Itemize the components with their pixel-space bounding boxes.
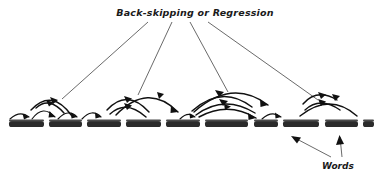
words-label: Words [322,161,354,171]
arrowhead-forward-2b [171,106,179,114]
leader-lines [62,22,318,100]
regression-cluster-4 [262,92,357,119]
word-blob [254,120,278,128]
leader-line-1 [62,22,148,99]
word-blob [166,120,200,128]
words-arrowhead-left [291,136,301,144]
word-blob [283,120,319,128]
word-blob [325,120,358,128]
regression-cluster-3 [180,90,268,120]
forward-arc-3b [199,109,256,118]
regression-cluster-2 [82,92,178,119]
arrowhead-forward-1b [49,111,56,118]
word-blob [49,120,82,128]
word-blob [363,120,374,128]
arrowhead-forward-2b-mid [157,92,164,99]
diagram-title: Back-skipping or Regression [116,7,274,18]
word-blob [87,120,121,128]
regression-cluster-1 [10,97,77,120]
reading-regression-diagram: Back-skipping or Regression [0,0,390,175]
word-blob [9,120,44,128]
text-line-words [9,120,374,128]
arrowhead-forward-4a [275,113,281,119]
words-pointer: Words [291,135,354,171]
leader-line-2 [138,22,172,95]
leader-line-4 [208,22,318,100]
words-arrowhead-right [336,135,344,145]
forward-arc-4b [300,104,357,116]
word-blob [205,120,248,128]
word-blob [126,120,161,128]
forward-arc-2b [116,98,178,115]
